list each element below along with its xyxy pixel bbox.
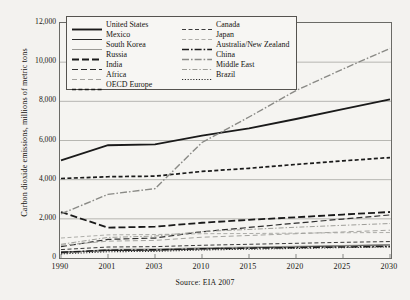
legend-swatch-icon [72,80,102,89]
legend-item: Brazil [182,70,296,79]
legend-label: South Korea [106,40,146,49]
legend-swatch-icon [182,40,212,49]
legend-label: India [106,60,122,69]
legend-item: South Korea [67,40,182,49]
legend-label: Mexico [106,30,130,39]
legend-item: Japan [182,30,296,39]
x-tick-marks [61,254,390,258]
legend-swatch-icon [182,70,212,79]
y-tick-label: 10,000 [10,56,56,65]
legend-swatch-icon [72,70,102,79]
legend-item: Russia [67,50,182,59]
legend-item: OECD Europe [67,80,182,89]
legend-label: China [216,50,235,59]
legend-label: OECD Europe [106,80,152,89]
legend-swatch-icon [72,60,102,69]
legend-item: United States [67,20,182,29]
legend-row: South KoreaAustralia/New Zealand [67,39,296,49]
x-tick-label: 2020 [273,262,317,271]
x-tick-label: 2003 [132,262,176,271]
legend-row: AfricaBrazil [67,69,296,79]
legend-swatch-icon [182,60,212,69]
legend-item: Middle East [182,60,296,69]
legend-label: United States [106,20,148,29]
x-tick-label: 2010 [179,262,223,271]
legend-item: Africa [67,70,182,79]
legend-item: China [182,50,296,59]
chart-page: Carbon dioxide emissions, millions of me… [0,0,410,300]
legend-swatch-icon [72,20,102,29]
y-tick-label: 2,000 [10,213,56,222]
x-tick-label: 2015 [226,262,270,271]
legend-item: Mexico [67,30,182,39]
legend-swatch-icon [72,50,102,59]
x-tick-label: 2025 [320,262,364,271]
y-tick-label: 8,000 [10,95,56,104]
legend: United StatesCanadaMexicoJapanSouth Kore… [66,16,297,90]
legend-item: India [67,60,182,69]
source-note: Source: EIA 2007 [0,278,410,287]
legend-label: Africa [106,70,126,79]
x-tick-label: 2030 [367,262,410,271]
y-tick-label: 12,000 [10,17,56,26]
legend-row: IndiaMiddle East [67,59,296,69]
legend-label: Japan [216,30,234,39]
legend-swatch-icon [72,30,102,39]
x-tick-label: 1990 [38,262,82,271]
x-tick-label: 2001 [85,262,129,271]
legend-swatch-icon [182,50,212,59]
legend-label: Brazil [216,70,235,79]
legend-row: United StatesCanada [67,19,296,29]
legend-label: Canada [216,20,240,29]
legend-label: Middle East [216,60,254,69]
legend-item: Australia/New Zealand [182,40,296,49]
legend-row: MexicoJapan [67,29,296,39]
legend-item: Canada [182,20,296,29]
legend-label: Australia/New Zealand [216,40,289,49]
legend-swatch-icon [182,30,212,39]
y-tick-label: 6,000 [10,135,56,144]
y-tick-label: 4,000 [10,174,56,183]
legend-swatch-icon [182,20,212,29]
legend-row: RussiaChina [67,49,296,59]
y-tick-label: 0 [10,252,56,261]
legend-swatch-icon [72,40,102,49]
legend-label: Russia [106,50,127,59]
series-line [61,158,390,179]
